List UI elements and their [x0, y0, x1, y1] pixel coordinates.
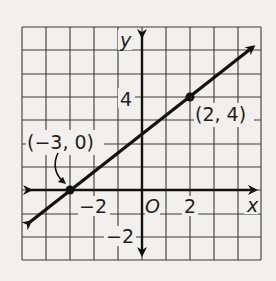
point-2-4 [186, 93, 195, 102]
point-neg3-0 [66, 186, 75, 195]
point-label-2-4: (2, 4) [195, 103, 246, 125]
x-axis-label: x [246, 194, 259, 216]
origin-label: O [145, 195, 160, 217]
tick-label-x-2: 2 [184, 195, 196, 217]
y-axis-label: y [119, 29, 132, 51]
coordinate-plane: y x O 4 −2 −2 2 (−3, 0) (2, 4) [0, 0, 276, 281]
tick-label-y-4: 4 [120, 88, 132, 110]
point-label-neg3-0: (−3, 0) [27, 131, 94, 153]
tick-label-y-neg2: −2 [106, 225, 134, 247]
tick-label-x-neg2: −2 [79, 195, 107, 217]
